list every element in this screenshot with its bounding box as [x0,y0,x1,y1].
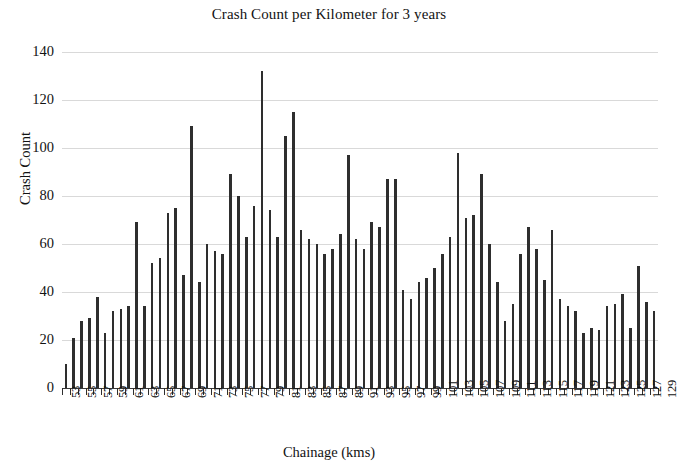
x-tick-label: 71 [212,386,225,398]
bar [253,206,256,388]
bar [653,311,656,388]
x-tick-label: 93 [384,386,397,398]
bar [198,282,201,388]
bar [151,263,154,388]
x-tick-label: 95 [400,386,413,398]
bar [65,364,68,388]
x-tick-label: 57 [102,386,115,398]
bar [190,126,193,388]
x-tick-label: 103 [463,380,476,398]
bar [574,311,577,388]
x-tick-label: 65 [165,386,178,398]
bar [229,174,232,388]
bar [488,244,491,388]
bar [237,196,240,388]
x-tick-label: 87 [337,386,350,398]
bar [621,294,624,388]
bar [637,266,640,388]
x-axis-label: Chainage (kms) [0,444,658,461]
bar [323,254,326,388]
bar [143,306,146,388]
bar [567,306,570,388]
bar [112,311,115,388]
x-tick-label: 63 [149,386,162,398]
bar [457,153,460,388]
bar [182,275,185,388]
bar [347,155,350,388]
bar [606,306,609,388]
x-tick-label: 53 [70,386,83,398]
bar [590,328,593,388]
bar [527,227,530,388]
x-tick-label: 73 [227,386,240,398]
x-tick-label: 99 [431,386,444,398]
x-tick-label: 81 [290,386,303,398]
bar [425,278,428,388]
x-tick-label: 107 [494,380,507,398]
bar [519,254,522,388]
y-tick-label: 0 [14,380,54,395]
bar [261,71,264,388]
x-tick-label: 113 [541,380,554,398]
bar [551,230,554,388]
bar [512,304,515,388]
bar [104,333,107,388]
bar [433,268,436,388]
bar [331,249,334,388]
x-tick-label: 97 [415,386,428,398]
x-tick-label: 129 [666,380,679,398]
x-tick-label: 119 [588,380,601,398]
x-tick-label: 105 [478,380,491,398]
bar [72,338,75,388]
gridline [62,100,658,101]
gridline [62,196,658,197]
bar [465,218,468,388]
bar [174,208,177,388]
x-tick-label: 55 [86,386,99,398]
x-tick-label: 101 [447,380,460,398]
x-tick [62,388,63,395]
bar [276,237,279,388]
x-tick-label: 61 [133,386,146,398]
bar [120,309,123,388]
bar [316,244,319,388]
bar [386,179,389,388]
bar [214,251,217,388]
bar [355,239,358,388]
bar [245,237,248,388]
x-tick-label: 123 [619,380,632,398]
y-tick-label: 140 [14,44,54,59]
x-tick-label: 125 [635,380,648,398]
x-tick-label: 91 [368,386,381,398]
x-tick-label: 115 [557,380,570,398]
bar [645,302,648,388]
plot-area [62,52,658,388]
chart-title: Crash Count per Kilometer for 3 years [0,6,658,23]
gridline [62,148,658,149]
bar [504,321,507,388]
bar [269,210,272,388]
bar [480,174,483,388]
bar [559,299,562,388]
bar [472,215,475,388]
bar [339,234,342,388]
y-tick-label: 60 [14,236,54,251]
bar [127,306,130,388]
bar [80,321,83,388]
x-tick-label: 69 [196,386,209,398]
x-tick-label: 109 [510,380,523,398]
bar [300,230,303,388]
y-tick-label: 80 [14,188,54,203]
bar [402,290,405,388]
bar [206,244,209,388]
bar [496,282,499,388]
x-tick-label: 59 [117,386,130,398]
bar [441,254,444,388]
bar [378,227,381,388]
bar [363,249,366,388]
bar [418,282,421,388]
x-tick-label: 77 [259,386,272,398]
bar [410,299,413,388]
bar [167,213,170,388]
